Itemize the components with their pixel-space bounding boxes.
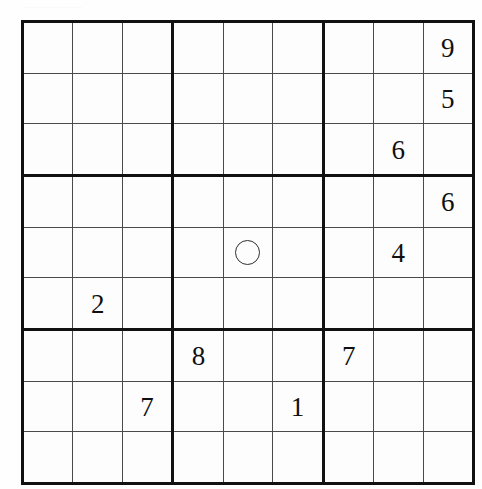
cell-r2c3[interactable] xyxy=(122,73,172,124)
cell-r8c8[interactable] xyxy=(374,381,423,432)
cell-r4c5[interactable] xyxy=(223,175,272,227)
grid-row: 6 xyxy=(23,175,474,227)
cell-r3c3[interactable] xyxy=(122,124,172,176)
cell-r1c2[interactable] xyxy=(73,22,122,74)
cell-value: 6 xyxy=(374,137,422,164)
grid-row: 7 1 xyxy=(23,381,474,432)
cell-r3c7[interactable] xyxy=(323,124,373,176)
cell-r8c9[interactable] xyxy=(423,381,473,432)
cell-r6c3[interactable] xyxy=(122,278,172,330)
grid-row: 8 7 xyxy=(23,329,474,381)
cell-r4c9[interactable]: 6 xyxy=(423,175,473,227)
cell-r7c8[interactable] xyxy=(374,329,423,381)
cell-value: 9 xyxy=(424,35,472,62)
cell-r6c5[interactable] xyxy=(223,278,272,330)
cell-value: 7 xyxy=(325,343,373,370)
cell-r4c3[interactable] xyxy=(122,175,172,227)
grid-row: 5 xyxy=(23,73,474,124)
grid-row: 2 xyxy=(23,278,474,330)
sudoku-grid: 9 5 xyxy=(21,20,475,485)
cell-r2c6[interactable] xyxy=(273,73,323,124)
page-canvas: ....................... 9 xyxy=(0,0,482,489)
cell-r9c5[interactable] xyxy=(223,432,272,484)
cell-r9c8[interactable] xyxy=(374,432,423,484)
cell-value: 6 xyxy=(424,189,472,216)
cell-r1c6[interactable] xyxy=(273,22,323,74)
cell-r5c2[interactable] xyxy=(73,227,122,278)
cell-r8c5[interactable] xyxy=(223,381,272,432)
cell-r6c4[interactable] xyxy=(173,278,223,330)
cell-r4c2[interactable] xyxy=(73,175,122,227)
cell-r7c2[interactable] xyxy=(73,329,122,381)
cell-r7c3[interactable] xyxy=(122,329,172,381)
cell-r9c4[interactable] xyxy=(173,432,223,484)
cell-r3c2[interactable] xyxy=(73,124,122,176)
cell-r9c7[interactable] xyxy=(323,432,373,484)
cell-r5c9[interactable] xyxy=(423,227,473,278)
cell-r5c7[interactable] xyxy=(323,227,373,278)
grid-row: 9 xyxy=(23,22,474,74)
cell-r8c7[interactable] xyxy=(323,381,373,432)
cell-value: 4 xyxy=(374,240,422,267)
cell-r8c2[interactable] xyxy=(73,381,122,432)
grid-row: 4 xyxy=(23,227,474,278)
cell-r2c4[interactable] xyxy=(173,73,223,124)
cell-r7c9[interactable] xyxy=(423,329,473,381)
cell-r3c4[interactable] xyxy=(173,124,223,176)
cell-r1c1[interactable] xyxy=(23,22,73,74)
cell-r9c2[interactable] xyxy=(73,432,122,484)
cell-r1c5[interactable] xyxy=(223,22,272,74)
cell-r7c7[interactable]: 7 xyxy=(323,329,373,381)
cell-r2c1[interactable] xyxy=(23,73,73,124)
circle-marker-icon xyxy=(235,240,260,265)
cell-r1c7[interactable] xyxy=(323,22,373,74)
cell-r4c1[interactable] xyxy=(23,175,73,227)
cell-r9c9[interactable] xyxy=(423,432,473,484)
cell-r5c3[interactable] xyxy=(122,227,172,278)
cell-r4c4[interactable] xyxy=(173,175,223,227)
cell-r1c9[interactable]: 9 xyxy=(423,22,473,74)
cell-r2c2[interactable] xyxy=(73,73,122,124)
cell-r2c8[interactable] xyxy=(374,73,423,124)
cell-r6c1[interactable] xyxy=(23,278,73,330)
cell-r8c3[interactable]: 7 xyxy=(122,381,172,432)
cell-r3c8[interactable]: 6 xyxy=(374,124,423,176)
cell-r7c6[interactable] xyxy=(273,329,323,381)
cell-r2c7[interactable] xyxy=(323,73,373,124)
cell-r5c1[interactable] xyxy=(23,227,73,278)
cell-r7c5[interactable] xyxy=(223,329,272,381)
cell-r3c5[interactable] xyxy=(223,124,272,176)
cell-r5c5[interactable] xyxy=(223,227,272,278)
cell-r7c1[interactable] xyxy=(23,329,73,381)
cell-r4c8[interactable] xyxy=(374,175,423,227)
cell-r1c3[interactable] xyxy=(122,22,172,74)
cell-r8c6[interactable]: 1 xyxy=(273,381,323,432)
cell-r3c1[interactable] xyxy=(23,124,73,176)
cell-r9c6[interactable] xyxy=(273,432,323,484)
cell-r2c5[interactable] xyxy=(223,73,272,124)
cell-r5c6[interactable] xyxy=(273,227,323,278)
cell-r6c9[interactable] xyxy=(423,278,473,330)
cell-r3c6[interactable] xyxy=(273,124,323,176)
cell-r7c4[interactable]: 8 xyxy=(173,329,223,381)
cell-r1c8[interactable] xyxy=(374,22,423,74)
cell-r4c7[interactable] xyxy=(323,175,373,227)
cell-r9c3[interactable] xyxy=(122,432,172,484)
cell-r5c4[interactable] xyxy=(173,227,223,278)
cell-r6c6[interactable] xyxy=(273,278,323,330)
cell-r8c1[interactable] xyxy=(23,381,73,432)
cell-r1c4[interactable] xyxy=(173,22,223,74)
cell-r6c8[interactable] xyxy=(374,278,423,330)
grid-row: 6 xyxy=(23,124,474,176)
cell-value: 7 xyxy=(123,394,171,421)
cell-r2c9[interactable]: 5 xyxy=(423,73,473,124)
cell-r3c9[interactable] xyxy=(423,124,473,176)
cell-value: 2 xyxy=(73,291,121,318)
cell-r6c7[interactable] xyxy=(323,278,373,330)
cell-r4c6[interactable] xyxy=(273,175,323,227)
cell-r6c2[interactable]: 2 xyxy=(73,278,122,330)
cell-r8c4[interactable] xyxy=(173,381,223,432)
cell-r9c1[interactable] xyxy=(23,432,73,484)
cell-r5c8[interactable]: 4 xyxy=(374,227,423,278)
cell-value: 8 xyxy=(174,343,222,370)
